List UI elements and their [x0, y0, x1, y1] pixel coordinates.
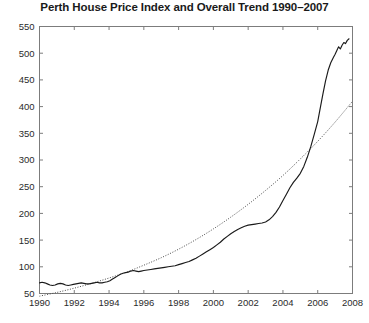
x-tick-label: 2002: [238, 297, 259, 308]
chart-plot-area: 50100150200250300350400450500550 1990199…: [0, 0, 369, 323]
x-axis-tick-labels: 1990199219941996199820002002200420062008: [29, 297, 363, 308]
chart-container: Perth House Price Index and Overall Tren…: [0, 0, 369, 323]
series-house-price-index: [40, 39, 350, 286]
y-tick-label: 500: [19, 48, 35, 59]
y-tick-label: 150: [19, 235, 35, 246]
y-tick-label: 350: [19, 128, 35, 139]
y-tick-label: 400: [19, 101, 35, 112]
x-tick-label: 1996: [133, 297, 154, 308]
y-axis-tick-marks: [40, 27, 353, 294]
y-axis-tick-labels: 50100150200250300350400450500550: [19, 21, 35, 299]
y-tick-label: 450: [19, 74, 35, 85]
y-tick-label: 550: [19, 21, 35, 32]
y-tick-label: 250: [19, 181, 35, 192]
x-tick-label: 1992: [64, 297, 85, 308]
x-tick-label: 2006: [307, 297, 328, 308]
x-tick-label: 1994: [98, 297, 119, 308]
x-tick-label: 1990: [29, 297, 50, 308]
x-tick-label: 2004: [272, 297, 293, 308]
x-axis-tick-marks: [40, 27, 353, 294]
y-tick-label: 100: [19, 261, 35, 272]
y-tick-label: 300: [19, 154, 35, 165]
x-tick-label: 2008: [342, 297, 363, 308]
plot-frame: [40, 27, 353, 294]
y-tick-label: 200: [19, 208, 35, 219]
series-overall-trend: [40, 101, 353, 296]
x-tick-label: 1998: [168, 297, 189, 308]
x-tick-label: 2000: [203, 297, 224, 308]
